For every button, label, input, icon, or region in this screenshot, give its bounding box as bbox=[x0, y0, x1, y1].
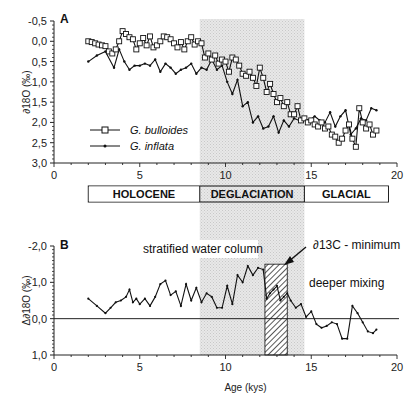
x-axis-label: Age (kys) bbox=[224, 382, 266, 393]
x-tick-label: 10 bbox=[219, 169, 231, 181]
annotation-stratified: stratified water column bbox=[143, 242, 263, 256]
delta-point bbox=[242, 281, 244, 283]
g-bulloides-marker bbox=[148, 34, 153, 39]
y-tick-label: 3,0 bbox=[32, 157, 47, 169]
delta-point bbox=[236, 274, 238, 276]
x-tick-label: 5 bbox=[137, 361, 143, 373]
delta-point bbox=[276, 285, 278, 287]
delta-point bbox=[115, 301, 117, 303]
x-tick-label: 10 bbox=[219, 361, 231, 373]
y-tick-label: 1,0 bbox=[32, 349, 47, 361]
delta-point bbox=[195, 287, 197, 289]
g-inflata-point bbox=[144, 62, 146, 64]
g-inflata-point bbox=[87, 60, 89, 62]
g-bulloides-marker bbox=[223, 59, 228, 64]
g-bulloides-marker bbox=[103, 44, 108, 49]
delta-point bbox=[96, 305, 98, 307]
delta-point bbox=[279, 299, 281, 301]
g-inflata-point bbox=[226, 81, 228, 83]
delta-point bbox=[149, 305, 151, 307]
delta-point bbox=[170, 294, 172, 296]
g-inflata-point bbox=[133, 64, 135, 66]
delta-point bbox=[190, 299, 192, 301]
g-inflata-point bbox=[339, 115, 341, 117]
g-inflata-point bbox=[139, 64, 141, 66]
g-bulloides-marker bbox=[250, 75, 255, 80]
delta-point bbox=[315, 323, 317, 325]
g-inflata-point bbox=[154, 58, 156, 60]
x-tick-label: 15 bbox=[305, 361, 317, 373]
g-bulloides-marker bbox=[158, 39, 163, 44]
delta-point bbox=[346, 338, 348, 340]
g-inflata-point bbox=[375, 109, 377, 111]
delta-point bbox=[200, 301, 202, 303]
g-bulloides-marker bbox=[264, 90, 269, 95]
delta-point bbox=[87, 298, 89, 300]
g-bulloides-marker bbox=[278, 96, 283, 101]
g-bulloides-marker bbox=[206, 51, 211, 56]
delta-point bbox=[362, 321, 364, 323]
g-bulloides-marker bbox=[137, 41, 142, 46]
g-inflata-point bbox=[283, 119, 285, 121]
g-bulloides-marker bbox=[357, 106, 362, 111]
panel-b-y-axis-label: Δ∂18O (‰) bbox=[21, 276, 32, 326]
g-bulloides-marker bbox=[340, 136, 345, 141]
g-inflata-point bbox=[180, 68, 182, 70]
y-tick-label: 0,5 bbox=[32, 56, 47, 68]
g-bulloides-marker bbox=[295, 104, 300, 109]
delta-point bbox=[135, 298, 137, 300]
delta-point bbox=[185, 283, 187, 285]
g-bulloides-marker bbox=[134, 47, 139, 52]
g-inflata-point bbox=[149, 64, 151, 66]
delta-point bbox=[367, 330, 369, 332]
delta-point bbox=[144, 298, 146, 300]
delta-point bbox=[247, 265, 249, 267]
delta-point bbox=[290, 299, 292, 301]
g-inflata-point bbox=[205, 68, 207, 70]
y-tick-label: 2,5 bbox=[32, 137, 47, 149]
delta-point bbox=[351, 305, 353, 307]
delta-point bbox=[132, 301, 134, 303]
delta-point bbox=[120, 299, 122, 301]
delta-point bbox=[231, 303, 233, 305]
delta-point bbox=[164, 279, 166, 281]
delta-point bbox=[216, 307, 218, 309]
legend: G. bulloidesG. inflata bbox=[90, 124, 189, 152]
g-inflata-point bbox=[288, 125, 290, 127]
panel-a-y-axis-label: ∂18O (‰) bbox=[21, 70, 32, 113]
g-bulloides-marker bbox=[374, 128, 379, 133]
y-tick-label: 0,0 bbox=[32, 35, 47, 47]
period-bar: HOLOCENEDEGLACIATIONGLACIAL bbox=[88, 186, 388, 202]
g-bulloides-marker bbox=[367, 122, 372, 127]
delta-point bbox=[226, 285, 228, 287]
g-inflata-point bbox=[277, 131, 279, 133]
c13-minimum-hatched-band bbox=[265, 264, 287, 355]
x-tick-label: 20 bbox=[391, 361, 403, 373]
delta-point bbox=[125, 296, 127, 298]
g-bulloides-marker bbox=[213, 53, 218, 58]
y-tick-label: 1,0 bbox=[32, 76, 47, 88]
delta-point bbox=[109, 307, 111, 309]
g-bulloides-marker bbox=[271, 92, 276, 97]
g-inflata-point bbox=[128, 68, 130, 70]
delta-point bbox=[300, 303, 302, 305]
g-bulloides-marker bbox=[233, 57, 238, 62]
delta-point bbox=[341, 338, 343, 340]
annotation-c13-minimum: ∂13C - minimum bbox=[313, 238, 400, 252]
delta-point bbox=[372, 332, 374, 334]
delta-point bbox=[211, 296, 213, 298]
g-inflata-point bbox=[262, 127, 264, 129]
figure: -0,50,00,51,01,52,02,53,005101520A∂18O (… bbox=[0, 0, 411, 398]
delta-point bbox=[262, 269, 264, 271]
g-bulloides-marker bbox=[247, 69, 252, 74]
g-bulloides-marker bbox=[257, 65, 262, 70]
delta-point bbox=[283, 296, 285, 298]
delta-point bbox=[295, 307, 297, 309]
y-tick-label: -0,5 bbox=[28, 15, 47, 27]
g-bulloides-marker bbox=[130, 37, 135, 42]
legend-marker-inflata bbox=[104, 145, 107, 148]
g-bulloides-marker bbox=[353, 144, 358, 149]
delta-point bbox=[356, 312, 358, 314]
delta-point bbox=[104, 312, 106, 314]
delta-point bbox=[128, 289, 130, 291]
